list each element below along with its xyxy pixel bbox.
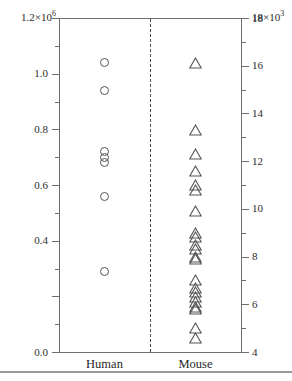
right-axis-major-tick — [241, 18, 249, 19]
left-axis-major-tick — [52, 352, 60, 353]
left-axis-tick-label: 1.0 — [34, 68, 48, 79]
right-axis-major-tick — [241, 304, 249, 305]
left-axis-exponent-cap: 1.2×106 — [21, 12, 56, 23]
left-axis-minor-tick — [55, 269, 60, 270]
right-axis-tick-label: 8 — [252, 251, 258, 262]
right-axis-minor-tick — [241, 137, 246, 138]
left-axis-minor-tick — [55, 157, 60, 158]
data-point-mouse — [189, 184, 202, 196]
figure: 0.00.40.60.81.0 4681012141618 1.2×106 18… — [0, 0, 292, 381]
category-divider-line — [150, 19, 151, 352]
right-axis-major-tick — [241, 257, 249, 258]
right-axis-minor-tick — [241, 233, 246, 234]
right-axis-tick-label: 14 — [252, 108, 263, 119]
left-axis-major-tick — [52, 241, 60, 242]
left-axis-minor-tick — [55, 102, 60, 103]
right-axis-major-tick — [241, 161, 249, 162]
right-axis-exponent-cap: 18×103 — [252, 12, 284, 23]
left-axis-minor-tick — [55, 213, 60, 214]
left-axis-major-tick — [52, 185, 60, 186]
left-axis-cap-exponent: 6 — [52, 9, 56, 18]
right-axis-minor-tick — [241, 328, 246, 329]
data-point-human — [100, 267, 109, 276]
data-point-mouse — [189, 124, 202, 136]
right-axis-minor-tick — [241, 185, 246, 186]
left-axis-tick-label: 0.4 — [34, 235, 48, 246]
data-point-mouse — [189, 148, 202, 160]
right-axis-major-tick — [241, 66, 249, 67]
data-point-mouse — [189, 165, 202, 177]
left-axis-minor-tick — [55, 324, 60, 325]
data-point-mouse — [189, 253, 202, 265]
left-axis-tick-label: 0.0 — [34, 347, 48, 358]
page-bottom-rule — [0, 371, 292, 373]
category-label-human: Human — [60, 357, 150, 371]
bottom-axis-line — [59, 352, 242, 353]
left-axis-cap-mantissa: 1.2×10 — [21, 11, 52, 23]
data-point-human — [100, 58, 109, 67]
left-axis-major-tick — [52, 129, 60, 130]
data-point-human — [100, 86, 109, 95]
right-axis-tick-label: 4 — [252, 347, 258, 358]
right-axis-major-tick — [241, 113, 249, 114]
left-axis-tick-label: 0.6 — [34, 180, 48, 191]
right-axis-tick-label: 10 — [252, 203, 263, 214]
data-point-mouse — [189, 57, 202, 69]
right-axis-minor-tick — [241, 90, 246, 91]
right-axis-major-tick — [241, 209, 249, 210]
right-axis-minor-tick — [241, 280, 246, 281]
data-point-mouse — [189, 205, 202, 217]
category-label-mouse: Mouse — [151, 357, 241, 371]
right-axis-major-tick — [241, 352, 249, 353]
right-axis-cap-mantissa: 18×10 — [252, 11, 280, 23]
right-axis-tick-label: 6 — [252, 299, 258, 310]
data-point-mouse — [189, 332, 202, 344]
left-axis-minor-tick — [55, 46, 60, 47]
data-point-human — [100, 192, 109, 201]
right-axis-tick-label: 12 — [252, 156, 263, 167]
right-axis-tick-label: 16 — [252, 60, 263, 71]
left-axis-major-tick — [52, 74, 60, 75]
right-axis-cap-exponent: 3 — [280, 9, 284, 18]
left-axis-tick-label: 0.8 — [34, 124, 48, 135]
left-axis-major-tick — [52, 296, 60, 297]
right-axis-minor-tick — [241, 42, 246, 43]
data-point-mouse — [189, 303, 202, 315]
